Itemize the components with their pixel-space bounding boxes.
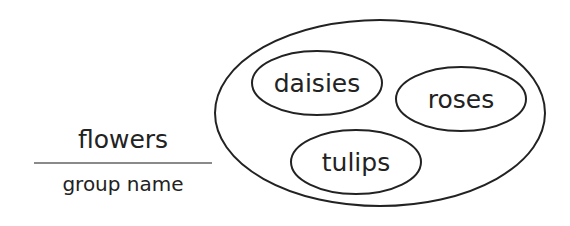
member-label: daisies [274,69,361,98]
set-member-roses: roses [396,67,526,131]
set-member-tulips: tulips [291,130,421,194]
outer-set-ellipse [215,20,545,206]
group-name-caption: group name [62,172,183,196]
set-member-daisies: daisies [252,51,382,115]
group-name-value: flowers [78,125,168,154]
member-label: roses [428,85,494,114]
set-diagram: flowers group name daisies roses tulips [0,0,570,226]
member-label: tulips [322,148,390,177]
